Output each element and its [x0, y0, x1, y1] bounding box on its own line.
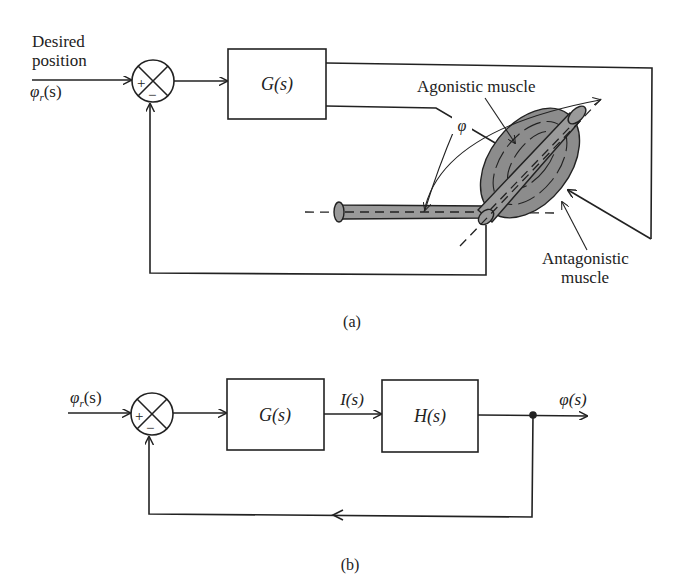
reference-signal-label-b: φr(s)	[70, 388, 102, 409]
caption-b: (b)	[341, 556, 360, 574]
angle-phi-label: φ	[458, 117, 467, 135]
antagonistic-signal-arrow	[568, 190, 651, 239]
plus-sign: +	[137, 75, 145, 91]
antagonistic-label-line1: Antagonistic	[542, 249, 629, 268]
minus-sign: −	[148, 87, 156, 103]
block-g-label-b: G(s)	[259, 405, 291, 426]
figure-a: Desired position φr(s) + − G(s)	[30, 32, 652, 331]
output-signal-label: φ(s)	[559, 390, 587, 409]
agonistic-muscle-label: Agonistic muscle	[417, 77, 536, 96]
reference-signal-label: φr(s)	[30, 82, 62, 103]
antagonistic-label-line2: muscle	[561, 268, 609, 287]
plus-sign-b: +	[135, 408, 143, 424]
desired-label-line2: position	[32, 51, 87, 70]
arm-illustration: φ	[305, 90, 604, 246]
intermediate-signal-label: I(s)	[339, 390, 364, 409]
feedback-loop-a	[150, 104, 486, 275]
agonistic-signal-arrow	[326, 106, 502, 147]
antagonistic-pointer	[562, 202, 587, 250]
block-h-label: H(s)	[413, 406, 446, 427]
summing-junction: + −	[132, 60, 174, 103]
minus-sign-b: −	[146, 420, 154, 436]
summing-junction-b: + −	[131, 393, 173, 436]
caption-a: (a)	[343, 313, 361, 331]
desired-label-line1: Desired	[32, 32, 85, 51]
figure-b: φr(s) + − G(s) I(s) H(s) φ(s) (b)	[68, 379, 587, 574]
muscle-control-figure: Desired position φr(s) + − G(s)	[0, 0, 684, 584]
controller-block-label: G(s)	[261, 74, 293, 95]
